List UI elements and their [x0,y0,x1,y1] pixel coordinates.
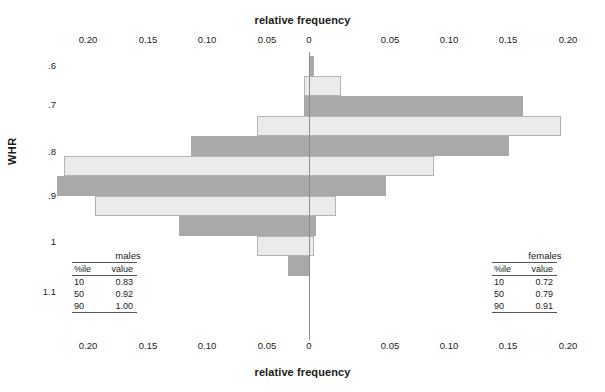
males-pctile-cell: 50 [72,288,97,300]
x-tick-label: 0.15 [488,34,528,45]
x-tick-label: 0.15 [488,340,528,351]
x-tick-label: 0.10 [429,340,469,351]
table-row: 901.00 [72,300,137,313]
table-row: 900.91 [492,300,557,313]
table-row: 500.92 [72,288,137,300]
females-col-pctile: %ile [492,263,517,276]
males-table-grid: %ile value 100.83500.92901.00 [72,262,137,313]
females-table-grid: %ile value 100.72500.79900.91 [492,262,557,313]
histogram-bar-females [288,256,309,276]
x-tick-label: 0.15 [128,340,168,351]
table-row: 100.83 [72,276,137,289]
x-tick-label: 0.20 [548,34,588,45]
x-tick-label: 0.05 [247,340,287,351]
x-tick-label: 0.20 [68,34,108,45]
females-pctile-cell: 50 [492,288,517,300]
females-col-value: value [517,263,557,276]
females-pctile-cell: 10 [492,276,517,289]
males-value-cell: 1.00 [97,300,137,313]
females-value-cell: 0.72 [517,276,557,289]
histogram-bar-females [191,136,509,156]
females-table-header-row: %ile value [492,263,557,276]
x-tick-label: 0.15 [128,34,168,45]
x-tick-label: 0.10 [187,340,227,351]
males-col-value: value [97,263,137,276]
males-table-caption: males [72,250,184,262]
males-pctile-cell: 10 [72,276,97,289]
x-tick-label: 0.10 [429,34,469,45]
females-table-body: 100.72500.79900.91 [492,276,557,313]
bottom-axis-title: relative frequency [0,366,605,378]
table-row: 100.72 [492,276,557,289]
x-tick-label: 0 [289,340,329,351]
males-table-header-row: %ile value [72,263,137,276]
histogram-bar-females [57,176,387,196]
x-tick-label: 0.20 [68,340,108,351]
males-value-cell: 0.83 [97,276,137,289]
females-pctile-cell: 90 [492,300,517,313]
x-tick-label: 0 [289,34,329,45]
histogram-bar-males [257,116,562,136]
males-value-cell: 0.92 [97,288,137,300]
males-percentile-table: males %ile value 100.83500.92901.00 [72,250,184,313]
females-value-cell: 0.79 [517,288,557,300]
histogram-bar-females [179,216,316,236]
females-percentile-table: females %ile value 100.72500.79900.91 [492,250,598,313]
x-tick-label: 0.05 [370,340,410,351]
zero-axis-line [309,52,310,340]
males-table-body: 100.83500.92901.00 [72,276,137,313]
histogram-bar-males [257,236,314,256]
x-tick-label: 0.05 [370,34,410,45]
histogram-bar-males [95,196,337,216]
females-value-cell: 0.91 [517,300,557,313]
chart-figure: relative frequency 0.200.150.100.0500.05… [0,0,605,392]
females-table-caption: females [492,250,598,262]
males-col-pctile: %ile [72,263,97,276]
top-axis-title: relative frequency [0,14,605,26]
table-row: 500.79 [492,288,557,300]
x-tick-label: 0.10 [187,34,227,45]
x-tick-label: 0.20 [548,340,588,351]
males-pctile-cell: 90 [72,300,97,313]
histogram-bar-males [64,156,434,176]
histogram-bar-females [304,96,523,116]
x-tick-label: 0.05 [247,34,287,45]
